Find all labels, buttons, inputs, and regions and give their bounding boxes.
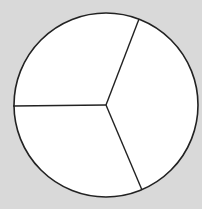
divider-left (13, 105, 106, 106)
divided-circle-diagram (0, 0, 202, 209)
